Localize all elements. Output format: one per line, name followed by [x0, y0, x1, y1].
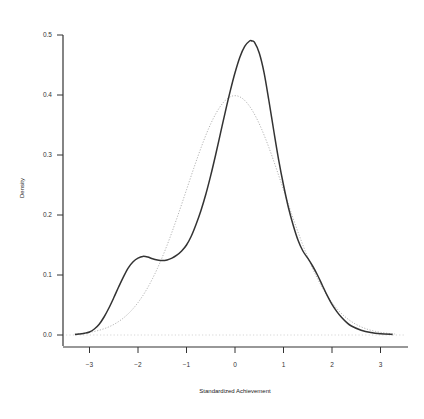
x-tick-label: 2 — [330, 361, 334, 368]
x-tick-label: 1 — [282, 361, 286, 368]
density-chart: 0.00.10.20.30.40.5 −3−2−10123 Standardiz… — [0, 0, 424, 419]
y-axis: 0.00.10.20.30.40.5 — [43, 31, 63, 346]
y-tick-label: 0.0 — [43, 331, 52, 338]
x-tick-label: −2 — [134, 361, 142, 368]
empirical-curve — [75, 41, 393, 335]
y-tick-label: 0.2 — [43, 211, 52, 218]
y-tick-label: 0.4 — [43, 91, 52, 98]
x-tick-label: −1 — [183, 361, 191, 368]
x-tick-label: 0 — [233, 361, 237, 368]
y-tick-label: 0.3 — [43, 151, 52, 158]
x-tick-label: −3 — [86, 361, 94, 368]
x-axis-title: Standardized Achievement — [199, 388, 271, 394]
x-axis: −3−2−10123 — [63, 347, 408, 368]
y-axis-title: Density — [19, 178, 25, 198]
y-tick-label: 0.5 — [43, 31, 52, 38]
y-tick-label: 0.1 — [43, 271, 52, 278]
x-tick-label: 3 — [379, 361, 383, 368]
normal-curve — [75, 96, 395, 334]
